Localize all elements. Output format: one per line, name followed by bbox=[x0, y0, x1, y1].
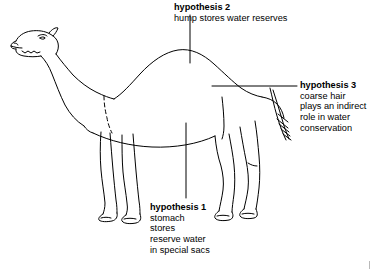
annotation-hypothesis-3-line-4: conservation bbox=[300, 123, 366, 134]
annotation-hypothesis-2-title: hypothesis 2 bbox=[174, 2, 287, 13]
camel-hock-line bbox=[248, 163, 257, 166]
camel-front-leg-near bbox=[122, 135, 127, 215]
annotation-hypothesis-1: hypothesis 1 stomach stores reserve wate… bbox=[150, 202, 210, 255]
camel-neck-front bbox=[41, 56, 84, 126]
camel-neck-back bbox=[56, 54, 114, 99]
annotation-hypothesis-3: hypothesis 3 coarse hair plays an indire… bbox=[300, 80, 366, 133]
camel-hypotheses-figure: hypothesis 2 hump stores water reserves … bbox=[0, 0, 386, 273]
corner-mark bbox=[369, 261, 370, 269]
camel-front-leg-far bbox=[100, 132, 105, 214]
camel-hind-leg-near-back bbox=[255, 121, 260, 209]
annotation-hypothesis-3-line-3: role in water bbox=[300, 112, 366, 123]
camel-shoulder-dashed-line bbox=[104, 96, 112, 133]
annotation-hypothesis-1-line-3: reserve water bbox=[150, 234, 210, 245]
camel-hind-leg-far bbox=[215, 136, 223, 211]
camel-mouth-line bbox=[22, 51, 40, 53]
camel-front-hoof-near-toe bbox=[124, 218, 136, 219]
camel-tail-inner bbox=[273, 90, 289, 139]
camel-nostril-icon bbox=[14, 43, 18, 45]
camel-muzzle-top bbox=[11, 41, 16, 49]
annotation-hypothesis-2-line-1: hump stores water reserves bbox=[174, 13, 287, 24]
camel-hind-leg-far-back bbox=[229, 134, 235, 212]
camel-ear-icon bbox=[49, 28, 58, 36]
camel-front-hoof-far-toe bbox=[101, 217, 111, 218]
annotation-hypothesis-1-line-2: stores bbox=[150, 223, 210, 234]
annotation-hypothesis-1-title: hypothesis 1 bbox=[150, 202, 210, 213]
camel-hind-hoof-far-toe bbox=[217, 215, 229, 216]
annotation-hypothesis-3-title: hypothesis 3 bbox=[300, 80, 366, 91]
camel-chest-line bbox=[84, 126, 93, 133]
camel-eye-icon bbox=[40, 37, 45, 39]
camel-hind-leg-near bbox=[240, 127, 248, 209]
camel-flank-crease bbox=[222, 97, 224, 139]
camel-head-outline bbox=[16, 31, 58, 54]
annotation-hypothesis-2: hypothesis 2 hump stores water reserves bbox=[174, 2, 287, 23]
camel-upper-lip bbox=[11, 46, 22, 48]
annotation-hypothesis-3-line-1: coarse hair bbox=[300, 91, 366, 102]
camel-hump-back bbox=[114, 50, 262, 99]
annotation-hypothesis-1-line-1: stomach bbox=[150, 213, 210, 224]
annotation-hypothesis-1-line-4: in special sacs bbox=[150, 245, 210, 256]
camel-front-leg-far-back bbox=[110, 133, 117, 213]
camel-brow-line bbox=[38, 35, 47, 37]
annotation-hypothesis-3-line-2: plays an indirect bbox=[300, 101, 366, 112]
camel-hind-hoof-near-toe bbox=[242, 213, 254, 214]
